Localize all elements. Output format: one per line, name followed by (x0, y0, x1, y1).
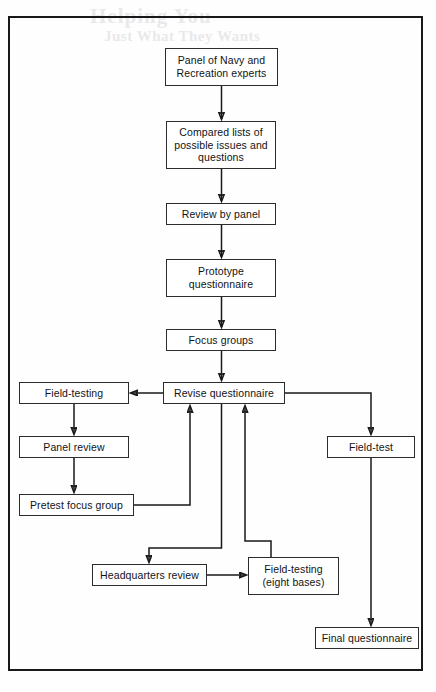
edge-fieldeight-to-revise (245, 406, 271, 557)
node-revise-questionnaire[interactable]: Revise questionnaire (163, 382, 285, 404)
node-panel-of-navy-and-recreation-experts[interactable]: Panel of Navy and Recreation experts (165, 48, 278, 86)
node-field-test[interactable]: Field-test (327, 436, 415, 458)
node-prototype-questionnaire[interactable]: Prototype questionnaire (166, 259, 276, 297)
node-field-testing-eight-bases[interactable]: Field-testing (eight bases) (248, 557, 339, 595)
edge-revise-to-fieldtest (285, 393, 371, 434)
node-final-questionnaire[interactable]: Final questionnaire (315, 627, 419, 649)
page-canvas: Helping You Just What They Wants (0, 0, 436, 692)
edge-pretest-to-revise (134, 406, 190, 505)
node-headquarters-review[interactable]: Headquarters review (92, 564, 207, 586)
node-panel-review[interactable]: Panel review (19, 436, 129, 458)
node-pretest-focus-group[interactable]: Pretest focus group (19, 494, 134, 516)
node-focus-groups[interactable]: Focus groups (166, 329, 276, 351)
node-compared-lists-of-possible-issues-and-questions[interactable]: Compared lists of possible issues and qu… (166, 121, 276, 169)
node-review-by-panel[interactable]: Review by panel (166, 203, 276, 225)
edge-revise-to-hq (149, 404, 222, 562)
node-field-testing[interactable]: Field-testing (19, 382, 129, 404)
flowchart: Panel of Navy and Recreation experts Com… (0, 0, 436, 692)
